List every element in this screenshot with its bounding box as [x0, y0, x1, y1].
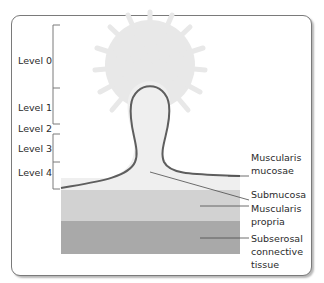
- muscularis-propria-layer: [61, 189, 240, 222]
- subserosal-label: Subserosal connective tissue: [251, 232, 303, 271]
- muscularis-mucosae-label: Muscularis mucosae: [251, 151, 301, 177]
- level-4-label: Level 4: [18, 166, 52, 179]
- label-line: tissue: [251, 258, 303, 271]
- subserosal-layer: [61, 221, 240, 254]
- submucosa-label: Submucosa: [251, 188, 306, 201]
- label-line: propria: [251, 215, 301, 228]
- level-0-label: Level 0: [18, 54, 52, 67]
- level-brackets: [53, 25, 60, 189]
- level-2-label: Level 2: [18, 122, 52, 135]
- polyp-halo: [61, 12, 240, 190]
- label-line: mucosae: [251, 164, 301, 177]
- label-line: Submucosa: [251, 188, 306, 201]
- muscularis-propria-label: Muscularis propria: [251, 202, 301, 228]
- level-3-label: Level 3: [18, 142, 52, 155]
- label-line: Muscularis: [251, 151, 301, 164]
- label-line: connective: [251, 245, 303, 258]
- label-line: Muscularis: [251, 202, 301, 215]
- level-1-label: Level 1: [18, 101, 52, 114]
- label-line: Subserosal: [251, 232, 303, 245]
